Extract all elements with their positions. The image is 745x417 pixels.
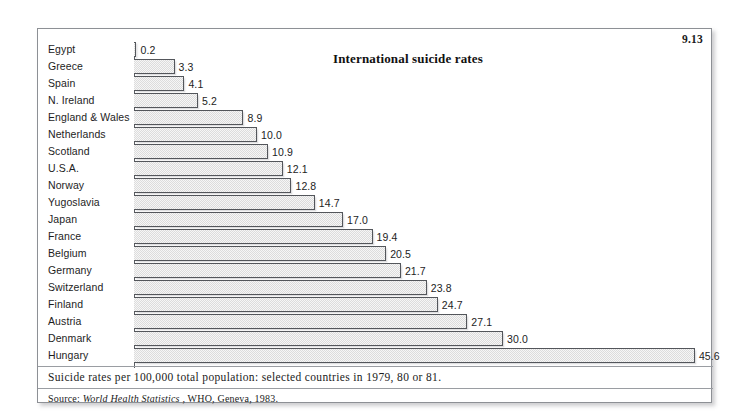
bar-value-label: 8.9 — [247, 112, 262, 124]
bar — [134, 331, 503, 346]
bar-wrapper: 24.7 — [134, 297, 438, 312]
bar-row: Hungary45.6 — [38, 347, 713, 364]
bar-value-label: 3.3 — [179, 61, 194, 73]
bar-category-label: Greece — [48, 60, 83, 72]
bar-category-label: Netherlands — [48, 128, 106, 140]
bar-category-label: N. Ireland — [48, 94, 95, 106]
bar-category-label: Germany — [48, 264, 92, 276]
bar-wrapper: 45.6 — [134, 348, 695, 363]
bar-wrapper: 14.7 — [134, 195, 315, 210]
bar — [134, 144, 268, 159]
bar — [134, 59, 175, 74]
bar-value-label: 23.8 — [431, 282, 452, 294]
bar-row: Austria27.1 — [38, 313, 713, 330]
source-prefix: Source: — [48, 393, 80, 404]
bar — [134, 42, 136, 57]
bar-category-label: Belgium — [48, 247, 87, 259]
bar-row: Scotland10.9 — [38, 143, 713, 160]
bar-wrapper: 0.2 — [134, 42, 136, 57]
bar-value-label: 24.7 — [442, 299, 463, 311]
bar-row: Belgium20.5 — [38, 245, 713, 262]
bar-wrapper: 12.8 — [134, 178, 291, 193]
bar — [134, 297, 438, 312]
bar-value-label: 19.4 — [377, 231, 398, 243]
bar-row: Norway12.8 — [38, 177, 713, 194]
bar-category-label: Japan — [48, 213, 77, 225]
bar-category-label: Norway — [48, 179, 84, 191]
bar — [134, 110, 243, 125]
bar-row: Netherlands10.0 — [38, 126, 713, 143]
bar-category-label: Finland — [48, 298, 83, 310]
bar-row: U.S.A.12.1 — [38, 160, 713, 177]
bar-wrapper: 19.4 — [134, 229, 373, 244]
bar-row: England & Wales8.9 — [38, 109, 713, 126]
bar-value-label: 45.6 — [699, 350, 720, 362]
bar — [134, 314, 467, 329]
bar — [134, 212, 343, 227]
bar-value-label: 4.1 — [188, 78, 203, 90]
figure-page: 9.13 International suicide rates Egypt0.… — [0, 0, 745, 417]
bar-category-label: England & Wales — [48, 111, 130, 123]
bar — [134, 178, 291, 193]
bar-category-label: Denmark — [48, 332, 91, 344]
bar — [134, 161, 283, 176]
bar-wrapper: 10.9 — [134, 144, 268, 159]
bar — [134, 93, 198, 108]
source-rest: , WHO, Geneva, 1983. — [182, 393, 278, 404]
bar-value-label: 12.1 — [287, 163, 308, 175]
bar-wrapper: 23.8 — [134, 280, 427, 295]
bar-row: Denmark30.0 — [38, 330, 713, 347]
bar-category-label: Austria — [48, 315, 81, 327]
bar — [134, 127, 257, 142]
bar-value-label: 10.0 — [261, 129, 282, 141]
bar-category-label: Egypt — [48, 43, 75, 55]
bar — [134, 229, 373, 244]
bar-value-label: 10.9 — [272, 146, 293, 158]
bar-row: Egypt0.2 — [38, 41, 713, 58]
bar-wrapper: 8.9 — [134, 110, 243, 125]
bar-list: Egypt0.2Greece3.3Spain4.1N. Ireland5.2En… — [38, 41, 713, 364]
bar-value-label: 0.2 — [140, 44, 155, 56]
figure-frame: 9.13 International suicide rates Egypt0.… — [37, 28, 712, 403]
bar-value-label: 27.1 — [471, 316, 492, 328]
bar — [134, 348, 695, 363]
bar-value-label: 21.7 — [405, 265, 426, 277]
bar-row: Germany21.7 — [38, 262, 713, 279]
bar — [134, 246, 386, 261]
bar — [134, 280, 427, 295]
bar-category-label: Spain — [48, 77, 75, 89]
bar-category-label: U.S.A. — [48, 162, 79, 174]
bar-wrapper: 4.1 — [134, 76, 184, 91]
bar-wrapper: 5.2 — [134, 93, 198, 108]
source-publication: World Health Statistics — [83, 393, 180, 404]
bar-row: Yugoslavia14.7 — [38, 194, 713, 211]
bar-category-label: Switzerland — [48, 281, 103, 293]
bar-category-label: France — [48, 230, 81, 242]
bar-row: Finland24.7 — [38, 296, 713, 313]
bar — [134, 76, 184, 91]
bar-value-label: 20.5 — [390, 248, 411, 260]
bar-wrapper: 20.5 — [134, 246, 386, 261]
bar-category-label: Yugoslavia — [48, 196, 100, 208]
bar-category-label: Scotland — [48, 145, 90, 157]
bar-wrapper: 27.1 — [134, 314, 467, 329]
bar — [134, 263, 401, 278]
bar-row: Japan17.0 — [38, 211, 713, 228]
bar-value-label: 14.7 — [319, 197, 340, 209]
figure-source: Source: World Health Statistics , WHO, G… — [38, 388, 713, 408]
bar-row: Greece3.3 — [38, 58, 713, 75]
bar-wrapper: 21.7 — [134, 263, 401, 278]
figure-caption: Suicide rates per 100,000 total populati… — [38, 366, 713, 388]
bar-row: France19.4 — [38, 228, 713, 245]
bar — [134, 195, 315, 210]
bar-value-label: 5.2 — [202, 95, 217, 107]
bar-row: N. Ireland5.2 — [38, 92, 713, 109]
bar-wrapper: 30.0 — [134, 331, 503, 346]
bar-category-label: Hungary — [48, 349, 88, 361]
bar-value-label: 12.8 — [295, 180, 316, 192]
bar-wrapper: 17.0 — [134, 212, 343, 227]
bar-row: Spain4.1 — [38, 75, 713, 92]
bar-chart-plot-area: Egypt0.2Greece3.3Spain4.1N. Ireland5.2En… — [38, 41, 713, 366]
bar-wrapper: 3.3 — [134, 59, 175, 74]
bar-row: Switzerland23.8 — [38, 279, 713, 296]
